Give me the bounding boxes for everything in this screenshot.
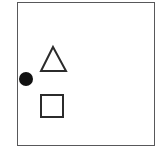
figure-border (17, 2, 155, 146)
filled-circle-shape (16, 69, 36, 89)
outlined-triangle-shape (38, 44, 69, 74)
outlined-square-shape (38, 92, 66, 120)
square-icon (38, 92, 66, 120)
triangle-icon (38, 44, 69, 74)
circle-icon (16, 69, 36, 89)
figure-canvas (0, 0, 162, 155)
